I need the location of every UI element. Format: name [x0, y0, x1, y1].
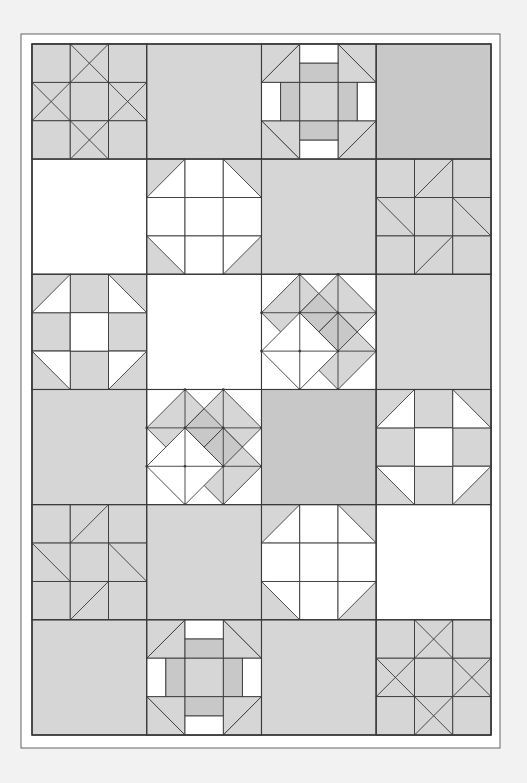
quilt-block-plain: [262, 620, 377, 735]
unit-square: [453, 428, 491, 466]
unit-square: [32, 44, 70, 82]
unit-square: [376, 236, 414, 274]
unit-square: [109, 581, 147, 619]
quilt-block-churn-dash: [262, 44, 377, 159]
unit-square: [300, 505, 338, 543]
unit-square: [300, 543, 338, 581]
unit-square: [32, 581, 70, 619]
unit-square: [32, 313, 70, 351]
unit-square: [70, 82, 108, 120]
quilt-block-plain: [32, 390, 147, 505]
unit-square: [109, 121, 147, 159]
unit-square: [415, 390, 453, 428]
quilt-block-ohio-star: [376, 620, 491, 735]
strip-inner: [185, 697, 223, 716]
plain-square: [262, 390, 377, 505]
quilt-block-snowball-nine-patch: [262, 505, 377, 620]
quilt-block-diamond-cross: [145, 388, 262, 506]
quilt-block-plain: [147, 44, 262, 159]
quilt-block-diamond-cross: [260, 273, 377, 391]
unit-square: [262, 543, 300, 581]
unit-square: [300, 581, 338, 619]
quilt-block-plain: [32, 620, 147, 735]
unit-square: [338, 543, 376, 581]
vertex-dot: [184, 427, 187, 430]
center-square: [70, 313, 108, 351]
unit-square: [376, 697, 414, 735]
quilt-block-churn-dash: [147, 620, 262, 735]
quilt-block-friendship-star: [376, 159, 491, 274]
plain-square: [147, 274, 262, 389]
unit-square: [453, 236, 491, 274]
vertex-dot: [337, 350, 340, 353]
quilt-block-plain: [376, 44, 491, 159]
quilt-block-plain: [376, 274, 491, 389]
quilt-block-shoofly: [32, 274, 147, 389]
strip-inner: [166, 658, 185, 696]
unit-square: [70, 351, 108, 389]
unit-square: [32, 121, 70, 159]
strip-outer: [300, 44, 338, 63]
strip-outer: [262, 82, 281, 120]
strip-outer: [185, 716, 223, 735]
quilt-block-plain: [262, 159, 377, 274]
unit-square: [185, 236, 223, 274]
vertex-dot: [298, 311, 301, 314]
plain-square: [376, 44, 491, 159]
center-square: [415, 428, 453, 466]
quilt-block-plain: [147, 505, 262, 620]
plain-square: [32, 620, 147, 735]
strip-inner: [281, 82, 300, 120]
plain-square: [32, 159, 147, 274]
unit-square: [453, 159, 491, 197]
vertex-dot: [298, 350, 301, 353]
strip-inner: [185, 639, 223, 658]
unit-square: [185, 159, 223, 197]
unit-square: [70, 543, 108, 581]
vertex-dot: [222, 427, 225, 430]
vertex-dot: [184, 465, 187, 468]
unit-square: [109, 313, 147, 351]
unit-square: [109, 505, 147, 543]
unit-square: [376, 159, 414, 197]
vertex-dot: [337, 311, 340, 314]
strip-inner: [338, 82, 357, 120]
unit-square: [70, 274, 108, 312]
quilt-block-plain: [262, 390, 377, 505]
strip-inner: [300, 121, 338, 140]
plain-square: [262, 620, 377, 735]
strip-inner: [300, 63, 338, 82]
unit-square: [223, 198, 261, 236]
quilt-block-plain: [376, 505, 491, 620]
unit-square: [109, 44, 147, 82]
quilt-block-plain: [147, 274, 262, 389]
plain-square: [147, 44, 262, 159]
quilt-block-ohio-star: [32, 44, 147, 159]
center-square: [185, 658, 223, 696]
strip-outer: [147, 658, 166, 696]
unit-square: [376, 428, 414, 466]
unit-square: [32, 505, 70, 543]
plain-square: [376, 505, 491, 620]
vertex-dot: [222, 465, 225, 468]
plain-square: [32, 390, 147, 505]
unit-square: [415, 198, 453, 236]
center-square: [300, 82, 338, 120]
strip-outer: [242, 658, 261, 696]
quilt-block-snowball-nine-patch: [147, 159, 262, 274]
unit-square: [376, 620, 414, 658]
plain-square: [376, 274, 491, 389]
quilt-diagram: [0, 0, 527, 783]
unit-square: [415, 466, 453, 504]
strip-outer: [357, 82, 376, 120]
unit-square: [453, 697, 491, 735]
quilt-block-shoofly: [376, 390, 491, 505]
plain-square: [147, 505, 262, 620]
quilt-block-plain: [32, 159, 147, 274]
strip-outer: [185, 620, 223, 639]
unit-square: [453, 620, 491, 658]
strip-outer: [300, 140, 338, 159]
unit-square: [185, 198, 223, 236]
plain-square: [262, 159, 377, 274]
quilt-block-friendship-star: [32, 505, 147, 620]
